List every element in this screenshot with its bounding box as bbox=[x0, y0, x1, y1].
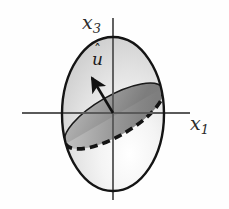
u-hat-stack: ˆu bbox=[92, 51, 103, 68]
x1-label-base: x bbox=[190, 112, 201, 134]
x1-label-subscript: 1 bbox=[201, 122, 209, 137]
x3-axis-label: x3 bbox=[82, 13, 101, 35]
unit-vector-label: ˆu bbox=[92, 51, 103, 68]
figure-container: x3 x1 ˆu bbox=[0, 0, 229, 209]
sphere-disk-diagram bbox=[0, 0, 229, 209]
x3-label-subscript: 3 bbox=[93, 21, 101, 36]
hat-accent-icon: ˆ bbox=[94, 43, 101, 57]
x1-axis-label: x1 bbox=[190, 114, 209, 136]
x3-label-base: x bbox=[82, 11, 93, 33]
